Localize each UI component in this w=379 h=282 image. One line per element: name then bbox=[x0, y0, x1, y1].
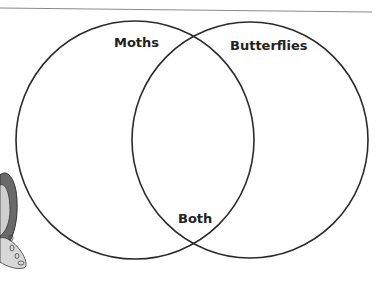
venn-diagram: Moths Butterflies Both bbox=[0, 0, 379, 282]
clipart-moth bbox=[0, 173, 26, 269]
circle-moths bbox=[16, 21, 254, 259]
label-butterflies: Butterflies bbox=[230, 38, 308, 53]
label-moths: Moths bbox=[114, 35, 159, 50]
top-rule bbox=[0, 8, 372, 12]
label-both: Both bbox=[178, 211, 212, 226]
circle-butterflies bbox=[132, 22, 368, 258]
